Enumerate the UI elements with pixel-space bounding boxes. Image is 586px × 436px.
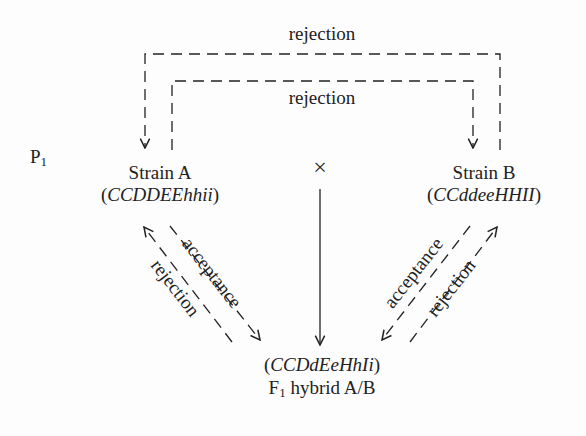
hybrid-label: F1 hybrid A/B (269, 378, 376, 398)
cross-symbol: × (313, 157, 327, 177)
generation-label-p1: P1 (30, 147, 47, 167)
outer-rejection-label: rejection (289, 24, 355, 44)
inner-rejection-label: rejection (289, 88, 355, 108)
strain-b-genotype: (CCddeeHHII) (427, 185, 541, 205)
hybrid-genotype: (CCDdEeHhIi) (264, 355, 380, 375)
strain-a-name: Strain A (129, 163, 192, 183)
strain-b-name: Strain B (453, 163, 516, 183)
strain-a-genotype: (CCDDEEhhii) (101, 185, 219, 205)
